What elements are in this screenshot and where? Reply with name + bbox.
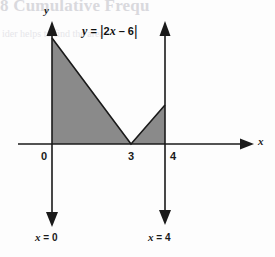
x-equals-0-down-arrowhead-icon — [46, 212, 58, 227]
x-equals-4-down-arrowhead-icon — [159, 210, 171, 225]
shaded-area-region — [52, 38, 165, 144]
x-axis-label: x — [258, 135, 264, 147]
equation-minus-six: – 6 — [116, 25, 134, 37]
x-equals-4-label: x = 4 — [148, 231, 170, 243]
x-tick-label-3: 3 — [128, 150, 134, 162]
y-axis-label: y — [44, 4, 49, 16]
figure-canvas: 8 Cumulative Frequ ider helps to find th… — [0, 0, 275, 257]
x-equals-0-label: x = 0 — [35, 231, 57, 243]
equation-annotation: y = |2x – 6| — [82, 23, 138, 39]
x-tick-label-4: 4 — [170, 150, 176, 162]
x-equals-4-label-rest: = 4 — [154, 232, 171, 243]
equation-close-abs-bar: | — [134, 23, 138, 39]
y-axis-arrowhead-icon — [47, 21, 58, 36]
x-equals-4-up-arrowhead-icon — [160, 21, 171, 36]
x-equals-0-label-rest: = 0 — [41, 232, 58, 243]
x-axis-arrowhead-icon — [240, 139, 254, 150]
x-tick-label-0: 0 — [41, 150, 47, 162]
equation-equals: = — [87, 25, 100, 37]
